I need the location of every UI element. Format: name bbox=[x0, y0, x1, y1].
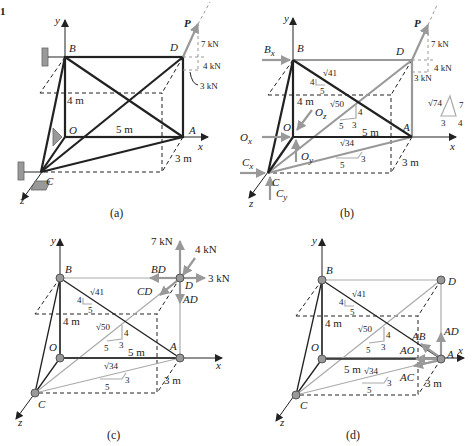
svg-text:AC: AC bbox=[399, 371, 415, 383]
svg-text:C: C bbox=[38, 398, 46, 410]
svg-text:√34: √34 bbox=[364, 366, 378, 376]
svg-text:y: y bbox=[50, 234, 56, 246]
svg-text:3: 3 bbox=[361, 154, 366, 164]
svg-text:4 m: 4 m bbox=[325, 317, 342, 329]
node-A: A bbox=[188, 124, 196, 136]
svg-text:5: 5 bbox=[350, 307, 355, 317]
svg-text:AO: AO bbox=[399, 344, 415, 356]
panel-c: y x z 7 kN 4 kN 3 kN BD CD AD bbox=[16, 234, 230, 442]
svg-text:3 kN: 3 kN bbox=[208, 272, 230, 284]
svg-text:BD: BD bbox=[151, 263, 166, 275]
svg-text:3: 3 bbox=[381, 342, 386, 352]
label-Cx: Cx bbox=[242, 156, 253, 171]
svg-text:5: 5 bbox=[367, 385, 372, 395]
sqrt74-label: √74 bbox=[428, 98, 442, 108]
svg-text:√41: √41 bbox=[323, 68, 337, 78]
node-O: O bbox=[69, 124, 77, 136]
comp-3kN: 3 kN bbox=[200, 81, 218, 91]
svg-text:D: D bbox=[184, 279, 193, 291]
svg-text:√50: √50 bbox=[358, 324, 372, 334]
svg-text:B: B bbox=[297, 42, 304, 54]
svg-text:4 m: 4 m bbox=[63, 315, 80, 327]
svg-text:5: 5 bbox=[104, 343, 109, 353]
dim-depth: 3 m bbox=[175, 152, 192, 164]
svg-text:x: x bbox=[449, 140, 455, 152]
svg-text:√41: √41 bbox=[90, 287, 104, 297]
comp-7kN: 7 kN bbox=[201, 39, 219, 49]
svg-text:C: C bbox=[272, 176, 280, 188]
caption-b: (b) bbox=[340, 206, 354, 220]
svg-text:O: O bbox=[311, 341, 319, 353]
svg-text:D: D bbox=[447, 275, 456, 287]
svg-text:A: A bbox=[402, 121, 410, 133]
svg-text:4: 4 bbox=[458, 118, 463, 128]
node-C: C bbox=[46, 175, 54, 187]
svg-text:4 kN: 4 kN bbox=[434, 63, 452, 73]
svg-text:√50: √50 bbox=[96, 322, 110, 332]
svg-text:7 kN: 7 kN bbox=[431, 39, 449, 49]
svg-text:3 m: 3 m bbox=[164, 374, 181, 386]
svg-text:5: 5 bbox=[340, 160, 345, 170]
svg-text:5: 5 bbox=[88, 305, 93, 315]
svg-text:5 m: 5 m bbox=[344, 363, 361, 375]
caption-d: (d) bbox=[346, 428, 360, 442]
x-label: x bbox=[197, 140, 203, 152]
svg-text:y: y bbox=[283, 12, 289, 24]
label-Cy: Cy bbox=[276, 187, 287, 202]
svg-text:4: 4 bbox=[358, 107, 363, 117]
joint-B bbox=[56, 274, 64, 282]
svg-text:z: z bbox=[248, 197, 254, 209]
figure-tag: 1 bbox=[0, 5, 6, 17]
svg-text:x: x bbox=[215, 359, 221, 371]
comp-4kN: 4 kN bbox=[203, 61, 221, 71]
svg-text:√41: √41 bbox=[352, 289, 366, 299]
force-AB bbox=[421, 344, 438, 356]
svg-text:5: 5 bbox=[105, 382, 110, 392]
support-B bbox=[42, 48, 48, 66]
svg-text:3: 3 bbox=[352, 120, 357, 130]
svg-text:z: z bbox=[279, 416, 285, 428]
force-P-label: P bbox=[184, 17, 191, 29]
svg-text:y: y bbox=[311, 234, 317, 246]
joint-O bbox=[56, 354, 64, 362]
svg-text:4: 4 bbox=[386, 330, 391, 340]
support-C-wall bbox=[18, 162, 24, 180]
dim-height: 4 m bbox=[67, 94, 84, 106]
svg-text:√50: √50 bbox=[330, 99, 344, 109]
panel-d: y x z AD AB AO AC √41 4 5 √50 bbox=[276, 234, 464, 442]
svg-text:3: 3 bbox=[119, 340, 124, 350]
svg-text:4: 4 bbox=[77, 295, 82, 305]
dim-length: 5 m bbox=[116, 123, 133, 135]
joint-D bbox=[176, 274, 184, 282]
svg-text:x: x bbox=[457, 344, 463, 356]
svg-text:B: B bbox=[65, 263, 72, 275]
joint-C bbox=[31, 389, 39, 397]
y-label: y bbox=[54, 14, 60, 26]
svg-text:A: A bbox=[446, 348, 454, 360]
force-CD bbox=[160, 281, 177, 295]
svg-text:3 m: 3 m bbox=[402, 156, 419, 168]
svg-text:7: 7 bbox=[459, 100, 464, 110]
svg-text:7 kN: 7 kN bbox=[151, 235, 173, 247]
svg-text:AD: AD bbox=[443, 325, 459, 337]
svg-text:4: 4 bbox=[124, 328, 129, 338]
svg-text:z: z bbox=[17, 416, 23, 428]
label-Oz: Oz bbox=[315, 106, 327, 121]
svg-text:5 m: 5 m bbox=[362, 126, 379, 138]
svg-text:3 kN: 3 kN bbox=[414, 73, 432, 83]
svg-text:4: 4 bbox=[339, 297, 344, 307]
svg-text:O: O bbox=[283, 121, 291, 133]
svg-text:A: A bbox=[169, 340, 177, 352]
label-Bx: Bx bbox=[264, 43, 275, 58]
panel-a: y x z P 7 kN 4 kN 3 kN B D O bbox=[18, 2, 221, 220]
svg-text:5: 5 bbox=[339, 121, 344, 131]
z-label: z bbox=[19, 194, 25, 206]
panel-b: y x z Bx Ox Oz Oy Cx Cy P bbox=[240, 5, 464, 220]
svg-text:O: O bbox=[49, 341, 57, 353]
svg-text:5: 5 bbox=[366, 345, 371, 355]
slope-triangle-P bbox=[441, 96, 456, 116]
node-B: B bbox=[69, 42, 76, 54]
label-Ox: Ox bbox=[240, 131, 252, 146]
svg-text:B: B bbox=[326, 264, 333, 276]
svg-text:3: 3 bbox=[441, 118, 446, 128]
